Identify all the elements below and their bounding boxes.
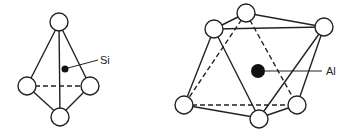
- al-label: Al: [326, 65, 336, 77]
- si-pointer-line: [68, 60, 98, 68]
- alumina-octahedron: [175, 4, 333, 128]
- oxygen-atom-top-back: [237, 4, 255, 22]
- oxygen-atom-top-right: [315, 18, 333, 36]
- oxygen-atom-bottom-right: [288, 96, 306, 114]
- oxygen-atom-top-left: [205, 20, 223, 38]
- octa-edge: [214, 27, 324, 29]
- oxygen-atom-bottom-front: [250, 110, 268, 128]
- aluminum-atom: [251, 64, 265, 78]
- octa-edge: [297, 27, 324, 105]
- oxygen-atom-bottom-left: [175, 96, 193, 114]
- oxygen-atom-top: [50, 13, 68, 31]
- tetra-edge: [59, 23, 90, 86]
- silicon-atom: [62, 66, 69, 73]
- silica-tetrahedron: [18, 13, 99, 126]
- silicate-structure-diagram: Si Al: [0, 0, 360, 139]
- oxygen-atom-bottom: [51, 108, 69, 126]
- octa-hidden-edge: [246, 13, 297, 105]
- oxygen-atom-left: [18, 77, 36, 95]
- tetra-edge: [59, 23, 60, 116]
- si-label: Si: [100, 54, 110, 66]
- oxygen-atom-right: [81, 77, 99, 95]
- octa-edge: [246, 13, 324, 27]
- tetra-edge: [27, 23, 59, 86]
- octa-edge: [184, 105, 259, 118]
